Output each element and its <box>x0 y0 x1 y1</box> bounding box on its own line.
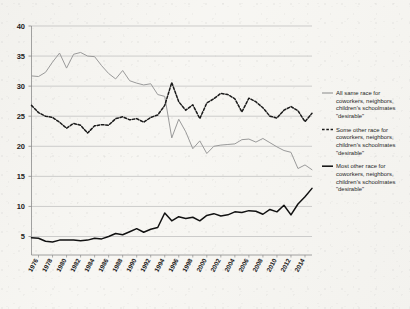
x-tick-label-1984: 1984 <box>83 257 96 273</box>
x-tick-label-2014: 2014 <box>293 257 306 273</box>
legend-label-most-other-race-line-1: Most other race for <box>336 163 385 169</box>
x-tick-label-1978: 1978 <box>41 257 54 273</box>
x-tick-label-1980: 1980 <box>55 257 68 273</box>
y-tick-label-25: 25 <box>17 112 25 121</box>
legend-label-all-same-race-line-1: All same race for <box>336 90 380 96</box>
legend-label-most-other-race-line-4: "desirable" <box>336 186 364 192</box>
x-tick-label-1988: 1988 <box>111 257 124 273</box>
x-tick-label-1976: 1976 <box>27 257 40 273</box>
y-tick-label-35: 35 <box>17 52 25 61</box>
legend-label-some-other-race-line-3: children's schoolmates <box>336 142 395 148</box>
x-tick-label-1986: 1986 <box>97 257 110 273</box>
legend-label-some-other-race-line-2: coworkers, neighbors, <box>336 134 394 140</box>
legend-label-most-other-race-line-2: coworkers, neighbors, <box>336 171 394 177</box>
legend-label-all-same-race-line-3: children's schoolmates <box>336 105 395 111</box>
x-tick-label-1998: 1998 <box>181 257 194 273</box>
y-tick-label-15: 15 <box>17 172 25 181</box>
x-tick-label-2012: 2012 <box>279 257 292 273</box>
legend-label-all-same-race-line-2: coworkers, neighbors, <box>336 98 394 104</box>
legend-label-some-other-race-line-1: Some other race for <box>336 127 388 133</box>
x-tick-label-1996: 1996 <box>167 257 180 273</box>
series-line-all-same-race <box>32 52 313 169</box>
x-tick-label-1982: 1982 <box>69 257 82 273</box>
x-tick-label-1990: 1990 <box>125 257 138 273</box>
x-axis-tick-labels: 1976197819801982198419861988199019921994… <box>27 255 307 273</box>
line-chart: 510152025303540 197619781980198219841986… <box>0 0 410 309</box>
chart-legend: All same race forcoworkers, neighbors,ch… <box>322 90 395 192</box>
legend-label-all-same-race-line-4: "desirable" <box>336 113 364 119</box>
legend-label-most-other-race-line-3: children's schoolmates <box>336 179 395 185</box>
x-tick-label-2010: 2010 <box>265 257 278 273</box>
y-tick-label-5: 5 <box>21 232 25 241</box>
y-tick-label-40: 40 <box>17 22 25 31</box>
y-tick-label-30: 30 <box>17 82 25 91</box>
gridlines <box>32 26 313 237</box>
x-tick-label-2006: 2006 <box>237 257 250 273</box>
legend-label-some-other-race-line-4: "desirable" <box>336 150 364 156</box>
chart-container: 510152025303540 197619781980198219841986… <box>0 0 410 309</box>
x-tick-label-2008: 2008 <box>251 257 264 273</box>
y-tick-label-10: 10 <box>17 202 25 211</box>
x-tick-label-2002: 2002 <box>209 257 222 273</box>
x-tick-label-2004: 2004 <box>223 257 236 273</box>
x-tick-label-1992: 1992 <box>139 257 152 273</box>
y-tick-label-20: 20 <box>17 142 25 151</box>
x-tick-label-2000: 2000 <box>195 257 208 273</box>
x-tick-label-1994: 1994 <box>153 257 166 273</box>
series-line-some-other-race <box>32 83 313 134</box>
series-line-most-other-race <box>32 188 313 242</box>
data-series <box>32 52 313 241</box>
y-axis-tick-labels: 510152025303540 <box>17 22 32 242</box>
